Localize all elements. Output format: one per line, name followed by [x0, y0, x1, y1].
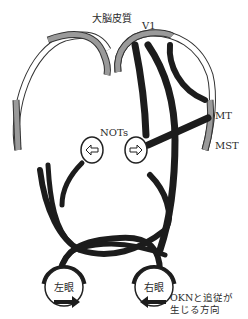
right-eye-label: 右眼	[144, 282, 164, 293]
direction-label-line2: 生じる方向	[170, 304, 220, 315]
mst-label: MST	[215, 140, 239, 151]
nots-label: NOTs	[100, 127, 128, 138]
mt-label: MT	[215, 110, 232, 121]
nots-nuclei	[81, 137, 147, 163]
left-hemisphere	[16, 35, 108, 150]
direction-label-line1: OKNと追従が	[170, 292, 233, 303]
retinal-pathways	[40, 163, 169, 272]
cortex-label: 大脳皮質	[92, 13, 132, 24]
right-hemisphere	[118, 33, 213, 150]
left-eye-label: 左眼	[54, 282, 74, 293]
visual-pathway-diagram	[0, 0, 248, 319]
v1-label: V1	[142, 20, 156, 31]
